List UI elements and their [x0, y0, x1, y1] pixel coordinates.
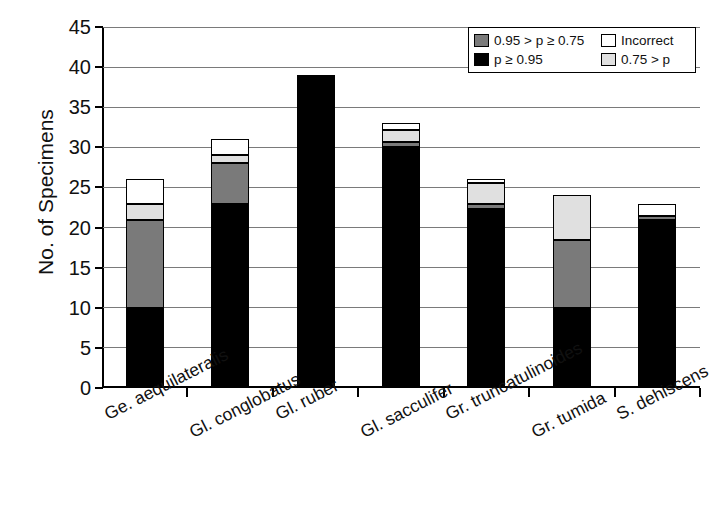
y-tick-label: 25	[69, 176, 91, 199]
bar-segment	[126, 179, 164, 203]
y-tick-label: 45	[69, 16, 91, 39]
bar-segment	[553, 195, 591, 239]
legend-item: 0.75 > p	[601, 52, 690, 67]
y-tick-mark	[95, 66, 103, 68]
bar-segment	[211, 155, 249, 163]
x-tick-mark	[357, 388, 359, 397]
legend-label: 0.75 > p	[621, 52, 670, 67]
bar-segment	[467, 183, 505, 203]
bar-segment	[467, 204, 505, 210]
bar	[382, 123, 420, 388]
x-tick-mark	[528, 388, 530, 397]
legend-swatch-icon	[601, 34, 616, 47]
y-tick-label: 20	[69, 216, 91, 239]
y-tick-mark	[95, 186, 103, 188]
bar-segment	[382, 123, 420, 129]
y-tick-mark	[95, 347, 103, 349]
y-tick-label: 35	[69, 96, 91, 119]
x-tick-label: Gr. tumida	[528, 387, 609, 442]
legend-item: p ≥ 0.95	[474, 52, 601, 67]
legend-swatch-icon	[474, 34, 489, 47]
bar	[638, 204, 676, 389]
y-tick-mark	[95, 227, 103, 229]
y-axis-line	[102, 27, 104, 388]
x-tick-mark	[186, 388, 188, 397]
bar	[297, 75, 335, 388]
bar-segment	[638, 220, 676, 388]
bar-segment	[382, 142, 420, 148]
y-axis-title: No. of Specimens	[34, 62, 58, 322]
y-tick-label: 5	[80, 336, 91, 359]
y-tick-mark	[95, 146, 103, 148]
plot-area: 051015202530354045	[102, 27, 700, 388]
bar-segment	[382, 147, 420, 388]
legend: 0.95 > p ≥ 0.75Incorrectp ≥ 0.950.75 > p	[468, 27, 696, 73]
bar-segment	[211, 163, 249, 203]
bar-segment	[382, 130, 420, 142]
y-tick-label: 15	[69, 256, 91, 279]
y-tick-mark	[95, 387, 103, 389]
y-tick-label: 40	[69, 56, 91, 79]
bar-segment	[638, 204, 676, 217]
y-tick-label: 30	[69, 136, 91, 159]
legend-label: Incorrect	[621, 33, 674, 48]
bar	[126, 179, 164, 388]
x-tick-mark	[699, 388, 701, 397]
y-tick-mark	[95, 26, 103, 28]
y-tick-label: 0	[80, 377, 91, 400]
legend-label: p ≥ 0.95	[494, 52, 543, 67]
legend-label: 0.95 > p ≥ 0.75	[494, 33, 584, 48]
bar-chart: No. of Specimens 051015202530354045 Ge. …	[0, 0, 720, 517]
x-tick-mark	[614, 388, 616, 397]
y-tick-mark	[95, 106, 103, 108]
legend-row: 0.95 > p ≥ 0.75Incorrect	[474, 31, 690, 50]
bar-segment	[211, 139, 249, 155]
bar-segment	[126, 220, 164, 308]
gridline	[102, 107, 700, 108]
legend-row: p ≥ 0.950.75 > p	[474, 50, 690, 69]
bar-segment	[638, 216, 676, 219]
y-tick-mark	[95, 267, 103, 269]
bar-segment	[467, 209, 505, 388]
bar-segment	[297, 75, 335, 388]
legend-item: Incorrect	[601, 33, 690, 48]
bar-segment	[553, 240, 591, 308]
legend-swatch-icon	[601, 53, 616, 66]
legend-item: 0.95 > p ≥ 0.75	[474, 33, 601, 48]
y-tick-label: 10	[69, 296, 91, 319]
y-tick-mark	[95, 307, 103, 309]
bar	[467, 179, 505, 388]
legend-swatch-icon	[474, 53, 489, 66]
bar-segment	[126, 204, 164, 220]
bar-segment	[467, 179, 505, 183]
